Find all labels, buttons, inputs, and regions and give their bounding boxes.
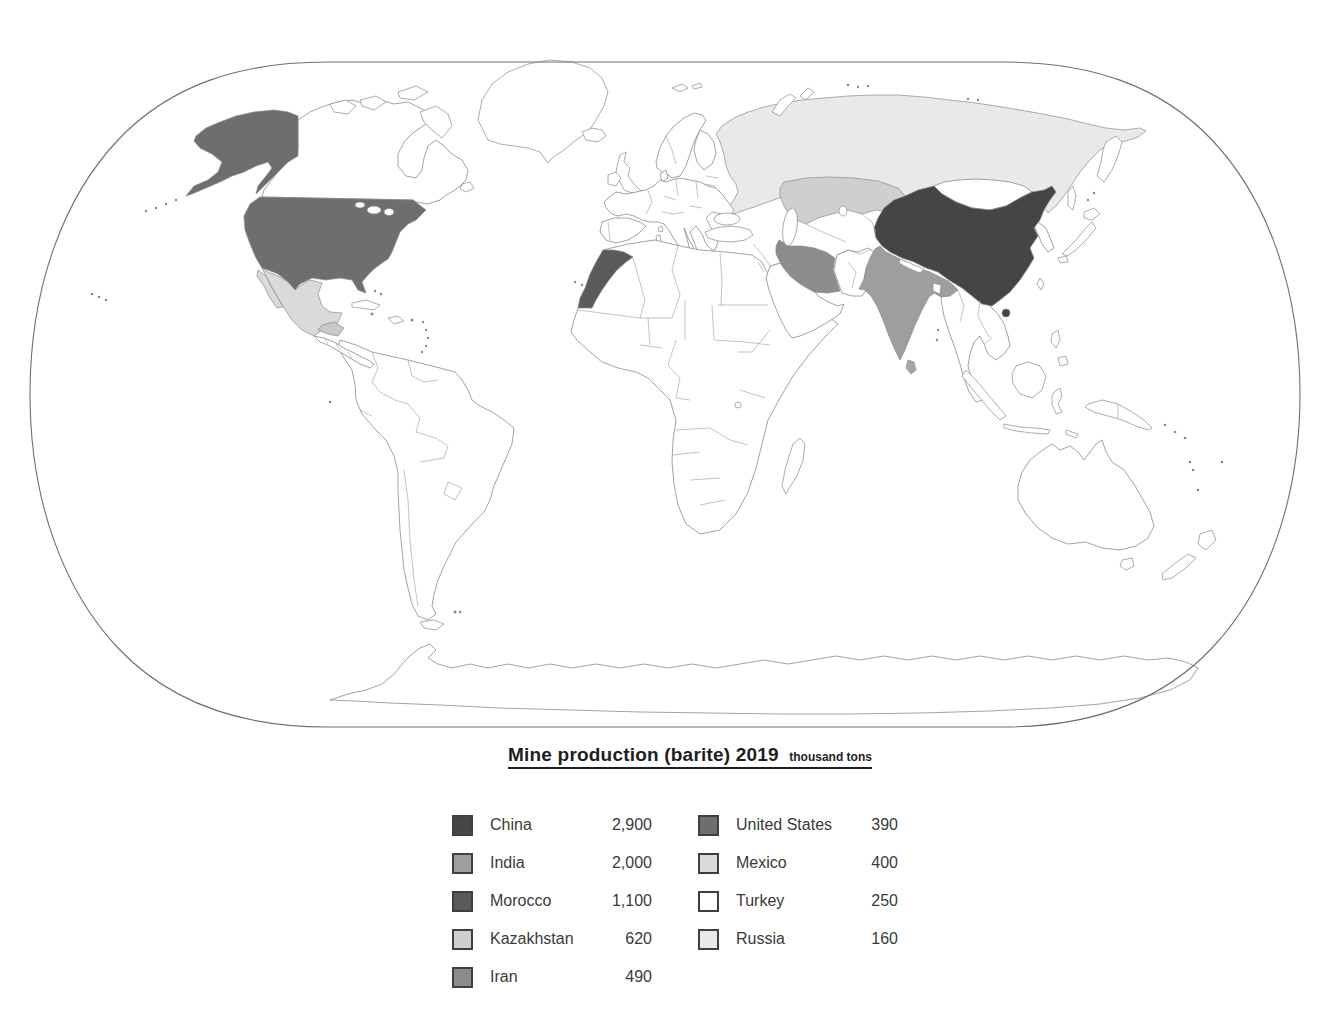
antarctica — [330, 644, 1198, 714]
australia — [1018, 440, 1154, 550]
title-text: Mine production (barite) 2019 — [508, 744, 779, 765]
swatch-russia-icon — [698, 929, 719, 950]
legend-value: 620 — [592, 930, 652, 948]
legend-value: 160 — [838, 930, 898, 948]
legend-value: 400 — [838, 854, 898, 872]
hispaniola — [388, 316, 404, 324]
legend-value: 2,000 — [592, 854, 652, 872]
title-unit: thousand tons — [789, 750, 872, 764]
madagascar — [782, 438, 805, 494]
legend-label: Turkey — [736, 892, 838, 910]
swatch-mexico-icon — [698, 853, 719, 874]
legend-value: 1,100 — [592, 892, 652, 910]
aral-sea — [839, 206, 847, 216]
philippines — [1051, 330, 1068, 366]
legend-row-kazakhstan: Kazakhstan 620 — [452, 920, 652, 958]
legend-row-iran: Iran 490 — [452, 958, 652, 996]
great-lake-2 — [367, 206, 381, 214]
cuba — [352, 300, 380, 310]
legend-value: 390 — [838, 816, 898, 834]
legend-left-column: China 2,900 India 2,000 Morocco 1,100 Ka… — [452, 806, 652, 996]
legend-label: Russia — [736, 930, 838, 948]
legend-label: United States — [736, 816, 838, 834]
legend-label: China — [490, 816, 592, 834]
legend-row-russia: Russia 160 — [698, 920, 898, 958]
caspian-sea — [780, 207, 799, 247]
black-sea — [714, 213, 740, 225]
swatch-iran-icon — [452, 967, 473, 988]
legend-label: Mexico — [736, 854, 838, 872]
legend-value: 2,900 — [592, 816, 652, 834]
island-sri-lanka — [906, 360, 916, 374]
swatch-kazakhstan-icon — [452, 929, 473, 950]
legend-value: 250 — [838, 892, 898, 910]
tierra-del-fuego — [420, 620, 444, 630]
legend: China 2,900 India 2,000 Morocco 1,100 Ka… — [452, 806, 898, 996]
legend-row-united-states: United States 390 — [698, 806, 898, 844]
sakhalin — [1068, 186, 1076, 210]
new-zealand — [1162, 530, 1216, 580]
country-turkey — [705, 226, 753, 242]
world-map — [0, 0, 1326, 745]
legend-row-mexico: Mexico 400 — [698, 844, 898, 882]
new-guinea — [1085, 400, 1152, 430]
swatch-turkey-icon — [698, 891, 719, 912]
chart-title: Mine production (barite) 2019 thousand t… — [27, 744, 1326, 769]
swatch-india-icon — [452, 853, 473, 874]
legend-row-turkey: Turkey 250 — [698, 882, 898, 920]
legend-label: Morocco — [490, 892, 592, 910]
iberia — [600, 218, 646, 243]
japan — [1058, 208, 1100, 263]
legend-label: India — [490, 854, 592, 872]
swatch-morocco-icon — [452, 891, 473, 912]
tasmania — [1120, 558, 1134, 570]
legend-label: Kazakhstan — [490, 930, 592, 948]
svalbard — [672, 83, 702, 92]
great-lake-3 — [384, 209, 394, 216]
swatch-united-states-icon — [698, 815, 719, 836]
legend-row-china: China 2,900 — [452, 806, 652, 844]
legend-right-column: United States 390 Mexico 400 Turkey 250 … — [698, 806, 898, 996]
united-kingdom — [616, 152, 646, 193]
taiwan — [1037, 278, 1044, 290]
finland — [694, 130, 716, 170]
legend-value: 490 — [592, 968, 652, 986]
greenland — [478, 60, 608, 163]
lake-victoria — [735, 402, 741, 408]
island-hainan — [1002, 309, 1010, 317]
legend-row-morocco: Morocco 1,100 — [452, 882, 652, 920]
great-lake-1 — [355, 202, 365, 208]
legend-row-india: India 2,000 — [452, 844, 652, 882]
swatch-china-icon — [452, 815, 473, 836]
legend-label: Iran — [490, 968, 592, 986]
